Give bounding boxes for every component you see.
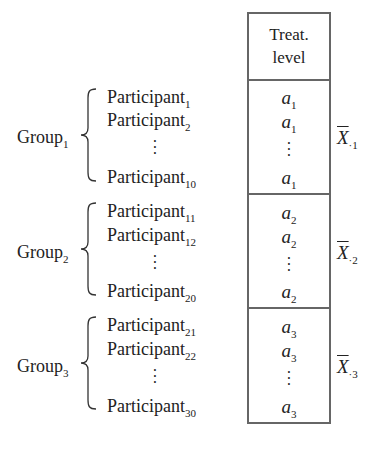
group-2-mean: X·2: [337, 243, 358, 270]
header-line-1: Treat.: [249, 24, 329, 45]
participant-20: Participant20: [107, 281, 196, 308]
participant-21: Participant21: [107, 315, 196, 342]
level-cell: a3: [247, 397, 331, 424]
level-ellipsis: ···: [247, 370, 331, 388]
group-1-brace-icon: [80, 88, 98, 182]
level-cell: a2: [247, 282, 331, 309]
participant-30: Participant30: [107, 396, 196, 423]
treatment-level-header: Treat. level: [247, 12, 331, 81]
level-cell: a1: [247, 168, 331, 195]
header-line-2: level: [249, 47, 329, 68]
participant-10: Participant10: [107, 167, 196, 194]
participant-ellipsis: ···: [150, 254, 160, 272]
group-3-label: Group3: [17, 356, 69, 383]
group-2-label: Group2: [17, 242, 69, 269]
level-ellipsis: ···: [247, 256, 331, 274]
participant-2: Participant2: [107, 110, 190, 137]
group-3-brace-icon: [80, 316, 98, 410]
participant-ellipsis: ···: [150, 368, 160, 386]
participant-ellipsis: ···: [150, 139, 160, 157]
group-3-mean: X·3: [337, 357, 358, 384]
group-2-brace-icon: [80, 202, 98, 296]
group-1-mean: X·1: [337, 128, 358, 155]
level-ellipsis: ···: [247, 141, 331, 159]
participant-11: Participant11: [107, 201, 196, 228]
group-1-label: Group1: [17, 127, 69, 154]
